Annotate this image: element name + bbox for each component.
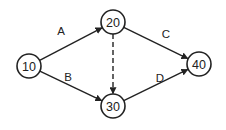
nodes-group: 10203040 xyxy=(17,10,211,118)
activity-label-b: B xyxy=(64,71,72,83)
node-label: 40 xyxy=(192,58,206,72)
network-diagram: ABCD 10203040 xyxy=(0,0,226,130)
activity-label-c: C xyxy=(162,28,170,40)
node-30: 30 xyxy=(101,94,125,118)
node-20: 20 xyxy=(101,10,125,34)
activity-arrow-c xyxy=(124,27,188,58)
activity-label-a: A xyxy=(57,25,65,37)
activity-label-d: D xyxy=(156,72,164,84)
node-40: 40 xyxy=(187,52,211,76)
node-label: 30 xyxy=(106,100,120,114)
activity-arrow-a xyxy=(40,28,102,61)
node-label: 10 xyxy=(22,60,36,74)
edges-group: ABCD xyxy=(40,25,188,101)
node-label: 20 xyxy=(106,16,120,30)
node-10: 10 xyxy=(17,54,41,78)
